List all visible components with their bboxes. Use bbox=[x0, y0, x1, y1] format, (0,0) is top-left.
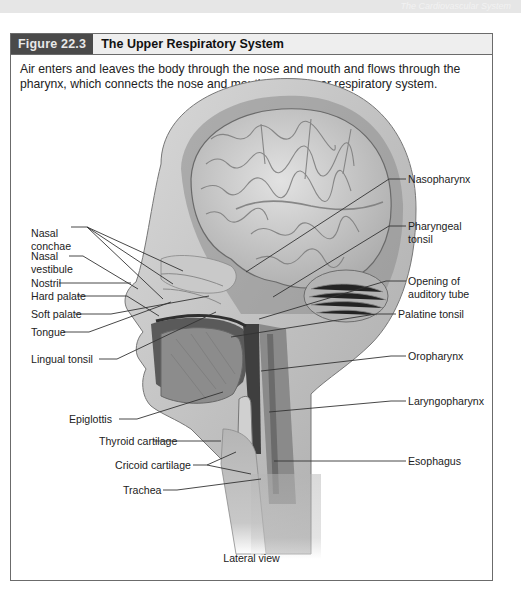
page-header-text: The Cardiovascular System bbox=[400, 1, 511, 11]
label-nasal-vestibule: Nasal vestibule bbox=[31, 250, 73, 275]
label-lingual-tonsil: Lingual tonsil bbox=[31, 353, 93, 366]
figure-frame: Figure 22.3 The Upper Respiratory System… bbox=[10, 33, 493, 581]
label-palatine-tonsil: Palatine tonsil bbox=[398, 308, 464, 321]
label-hard-palate: Hard palate bbox=[31, 290, 86, 303]
label-text: Nasal conchae bbox=[31, 227, 71, 252]
label-pharyngeal-tonsil: Pharyngeal tonsil bbox=[408, 220, 462, 245]
label-opening-of-auditory-tube: Opening of auditory tube bbox=[408, 275, 469, 300]
label-laryngopharynx: Laryngopharynx bbox=[408, 395, 484, 408]
label-soft-palate: Soft palate bbox=[31, 308, 82, 321]
page-header-band: The Cardiovascular System bbox=[0, 0, 521, 13]
tongue-shape bbox=[161, 328, 243, 404]
label-trachea: Trachea bbox=[123, 484, 161, 497]
label-nasal-conchae: Nasal conchae bbox=[31, 227, 71, 252]
label-tongue: Tongue bbox=[31, 326, 66, 339]
label-nasopharynx: Nasopharynx bbox=[408, 173, 470, 186]
label-cricoid-cartilage: Cricoid cartilage bbox=[115, 459, 191, 472]
label-oropharynx: Oropharynx bbox=[408, 350, 463, 363]
label-thyroid-cartilage: Thyroid cartilage bbox=[99, 435, 177, 448]
label-text: Nasal vestibule bbox=[31, 250, 73, 275]
view-label: Lateral view bbox=[11, 552, 492, 564]
label-esophagus: Esophagus bbox=[408, 455, 461, 468]
label-epiglottis: Epiglottis bbox=[69, 413, 112, 426]
label-nostril: Nostril bbox=[31, 277, 61, 290]
